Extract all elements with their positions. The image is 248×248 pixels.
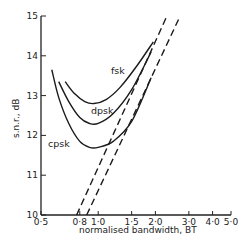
x-tick-label: 0·5 — [34, 217, 48, 227]
y-tick-label: 13 — [27, 91, 38, 101]
y-tick-label: 14 — [27, 51, 39, 61]
x-tick-label: 4·0 — [205, 217, 220, 227]
y-tick-label: 15 — [27, 11, 38, 21]
x-tick-label: 5·0 — [224, 217, 239, 227]
series-label-cpsk: cpsk — [48, 138, 70, 149]
x-axis-title: normalised bandwidth, BT — [79, 225, 197, 235]
series-label-fsk: fsk — [111, 65, 125, 76]
series-lines — [52, 16, 180, 215]
y-tick-label: 12 — [27, 130, 38, 140]
y-tick-label: 11 — [27, 170, 38, 180]
y-axis-title: s.n.r., dB — [11, 99, 21, 138]
series-label-dpsk: dpsk — [91, 105, 114, 116]
y-ticks: 101112131415 — [27, 11, 46, 220]
axes — [41, 16, 231, 215]
snr-vs-bandwidth-chart: 101112131415 0·50·81·01·52·03·04·05·0 fs… — [0, 0, 248, 248]
